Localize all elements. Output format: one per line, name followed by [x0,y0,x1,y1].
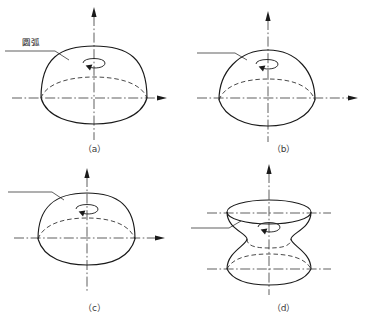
horizontal-axis-arrowhead-b [348,95,358,100]
panel-b-drawing [189,0,378,159]
caption-b: （b） [189,142,378,155]
panel-c: 椭圆 （c） [0,159,189,318]
vertical-axis-arrowhead-d [266,164,271,174]
dome-outline-b [219,50,315,100]
panel-b: 抛物线 （b） [189,0,378,159]
curve-label-a: 圆弧 [22,38,40,47]
right-hyperbola-profile-d [291,212,311,269]
base-front-arc-c [38,239,135,265]
panel-d: 双曲线 （d） [189,159,378,318]
revolution-surfaces-figure: 圆弧 （a） 抛物线 （b） [0,0,378,318]
leader-diagonal-d [229,221,241,228]
panel-c-drawing [0,159,189,318]
caption-d: （d） [189,301,378,314]
panel-a: 圆弧 （a） [0,0,189,159]
horizontal-axis-arrowhead-c [155,235,165,240]
caption-a: （a） [0,142,189,155]
leader-diagonal-b [235,53,247,60]
panel-d-drawing [189,159,378,318]
caption-c: （c） [0,301,189,314]
vertical-axis-arrowhead-b [265,11,270,21]
base-rear-arc-b [219,79,315,100]
vertical-axis-arrowhead-a [91,7,96,17]
vertical-axis-arrowhead-c [84,168,89,178]
horizontal-axis-arrowhead-a [157,95,167,100]
base-front-arc-b [219,100,315,126]
dome-outline-c [38,193,135,239]
base-rear-arc-c [38,218,135,239]
left-hyperbola-profile-d [227,212,247,269]
rotation-arrow-path-b [256,60,278,69]
panel-a-drawing [0,0,189,159]
